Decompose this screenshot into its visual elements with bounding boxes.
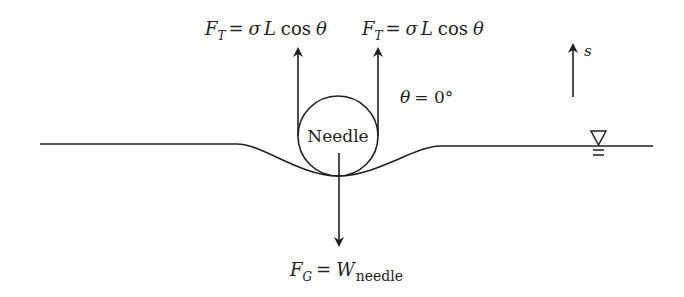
s-axis-label: s bbox=[584, 42, 592, 60]
tension-right-label: FT=σLcosθ bbox=[361, 18, 484, 43]
contact-angle-label: θ= 0° bbox=[400, 87, 453, 107]
water-surface-line bbox=[40, 144, 653, 176]
tension-left-label: FT=σLcosθ bbox=[204, 18, 327, 43]
needle-force-diagram: Needle FT=σLcosθ FT=σLcosθ θ= 0° s FG=Wn… bbox=[0, 0, 684, 297]
gravity-label: FG=Wneedle bbox=[289, 259, 403, 284]
needle-label: Needle bbox=[307, 126, 368, 146]
free-surface-icon bbox=[591, 131, 606, 155]
